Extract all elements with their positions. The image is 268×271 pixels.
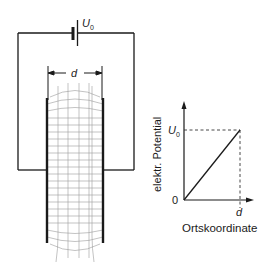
origin-label: 0	[172, 194, 178, 206]
y-tick-u0: U0	[168, 124, 180, 138]
x-axis-arrow-icon	[246, 198, 254, 203]
gap-label: d	[71, 67, 78, 79]
potential-graph: U0 0 d Ortskoordinate elektr. Potential	[151, 101, 257, 234]
potential-line	[184, 130, 240, 200]
x-tick-d: d	[236, 206, 243, 218]
source-voltage-label: U0	[82, 17, 94, 31]
diagram-canvas: U0 d	[0, 0, 268, 271]
x-axis-label: Ortskoordinate	[182, 222, 257, 234]
y-axis-label: elektr. Potential	[151, 117, 163, 192]
field-grid	[47, 83, 103, 262]
electrodes	[47, 98, 103, 243]
dashed-guides	[184, 130, 240, 208]
y-axis-arrow-icon	[182, 101, 187, 109]
circuit	[18, 33, 134, 170]
axes	[184, 107, 248, 200]
battery-icon	[73, 20, 78, 46]
